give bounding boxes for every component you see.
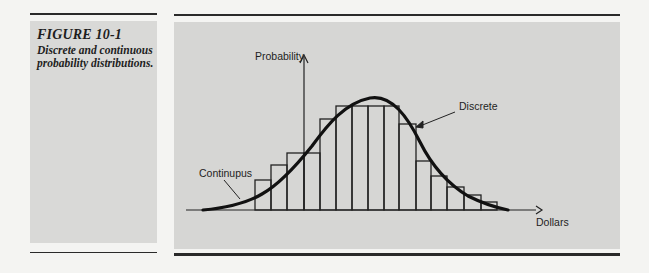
continuous-curve bbox=[203, 98, 508, 210]
continuous-label: Continupus bbox=[199, 167, 252, 179]
discrete-histogram bbox=[255, 106, 497, 210]
discrete-label: Discrete bbox=[459, 100, 498, 112]
axes bbox=[186, 55, 542, 214]
y-axis-label: Probability bbox=[255, 50, 304, 62]
probability-chart bbox=[0, 0, 649, 273]
x-axis-label: Dollars bbox=[536, 216, 569, 228]
annotation-leaders bbox=[224, 112, 455, 199]
